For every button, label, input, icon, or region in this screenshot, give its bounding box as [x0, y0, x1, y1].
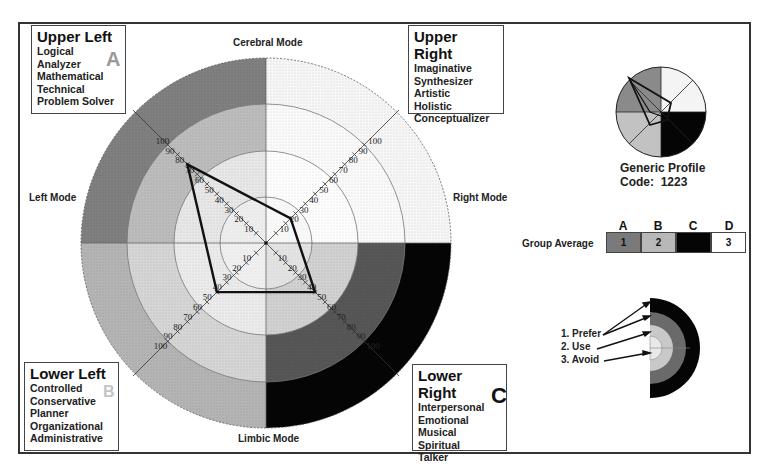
quadrant-box-lower-right: Lower Right Interpersonal Emotional Musi…: [412, 364, 507, 451]
svg-text:50: 50: [203, 292, 213, 302]
quadrant-letter: B: [103, 383, 115, 401]
svg-text:10: 10: [278, 253, 288, 263]
trait: Problem Solver: [37, 95, 120, 108]
svg-text:90: 90: [356, 331, 366, 341]
group-cell-c: [676, 232, 711, 253]
trait: Conservative: [30, 395, 113, 408]
svg-text:60: 60: [195, 175, 205, 185]
trait: Synthesizer: [414, 75, 498, 88]
svg-text:30: 30: [225, 205, 235, 215]
preference-legend-graphic: [597, 298, 700, 398]
svg-text:100: 100: [368, 136, 382, 146]
trait: Musical: [418, 426, 501, 439]
svg-text:100: 100: [154, 341, 168, 351]
trait: Conceptualizer: [414, 112, 498, 125]
group-col-header: C: [675, 219, 711, 233]
quadrant-letter: C: [491, 383, 507, 409]
generic-profile-title: Generic Profile: [620, 161, 705, 175]
svg-text:90: 90: [166, 146, 176, 156]
svg-text:30: 30: [299, 205, 309, 215]
trait: Administrative: [30, 432, 113, 445]
svg-text:60: 60: [327, 302, 337, 312]
svg-text:70: 70: [183, 312, 193, 322]
code-label: Code:: [620, 175, 654, 189]
quadrant-box-upper-left: Upper Left Logical Analyzer Mathematical…: [31, 25, 126, 114]
quadrant-box-upper-right: Upper Right Imaginative Synthesizer Arti…: [408, 25, 504, 114]
code-value: 1223: [661, 175, 688, 189]
svg-text:100: 100: [156, 136, 170, 146]
group-col-header: A: [605, 219, 641, 233]
svg-text:40: 40: [309, 195, 319, 205]
svg-text:90: 90: [164, 331, 174, 341]
svg-text:10: 10: [280, 224, 290, 234]
group-cell-d: 3: [711, 232, 746, 253]
svg-text:60: 60: [193, 302, 203, 312]
mode-label-cerebral: Cerebral Mode: [233, 37, 302, 48]
quadrant-box-lower-left: Lower Left Controlled Conservative Plann…: [24, 362, 119, 451]
trait: Mathematical: [37, 70, 120, 83]
svg-text:20: 20: [288, 263, 298, 273]
generic-profile-code: Code: 1223: [620, 175, 687, 189]
quadrant-title: Upper Right: [414, 28, 498, 62]
legend-use: 2. Use: [561, 341, 590, 353]
mode-label-right: Right Mode: [453, 192, 507, 203]
svg-text:10: 10: [242, 253, 252, 263]
svg-text:30: 30: [223, 272, 233, 282]
quadrant-title: Lower Left: [30, 365, 113, 382]
generic-profile-pie: [616, 67, 706, 157]
group-cell-a: 1: [606, 232, 641, 253]
svg-text:20: 20: [234, 214, 244, 224]
svg-text:40: 40: [215, 195, 225, 205]
svg-text:80: 80: [349, 155, 359, 165]
svg-text:80: 80: [175, 155, 185, 165]
trait: Planner: [30, 407, 113, 420]
trait: Interpersonal: [418, 401, 501, 414]
chart-center: [264, 241, 268, 245]
mode-label-left: Left Mode: [29, 192, 76, 203]
trait: Holistic: [414, 100, 498, 113]
mode-label-limbic: Limbic Mode: [238, 433, 299, 444]
svg-text:70: 70: [339, 165, 349, 175]
trait: Talker: [418, 451, 501, 464]
legend-avoid: 3. Avoid: [561, 354, 599, 366]
svg-text:20: 20: [232, 263, 242, 273]
trait: Artistic: [414, 87, 498, 100]
svg-text:70: 70: [337, 312, 347, 322]
trait: Emotional: [418, 414, 501, 427]
svg-text:80: 80: [173, 322, 183, 332]
svg-text:50: 50: [317, 292, 327, 302]
trait: Organizational: [30, 420, 113, 433]
svg-text:100: 100: [366, 341, 380, 351]
svg-text:50: 50: [319, 185, 329, 195]
trait: Imaginative: [414, 62, 498, 75]
svg-text:60: 60: [329, 175, 339, 185]
group-average-label: Group Average: [522, 238, 594, 249]
quadrant-title: Lower Right: [418, 367, 501, 401]
trait: Technical: [37, 83, 120, 96]
quadrant-title: Upper Left: [37, 28, 120, 45]
group-col-header: B: [640, 219, 676, 233]
trait: Controlled: [30, 382, 113, 395]
svg-text:90: 90: [358, 146, 368, 156]
svg-text:50: 50: [205, 185, 215, 195]
quadrant-letter: A: [106, 48, 120, 71]
legend-prefer: 1. Prefer: [561, 328, 601, 340]
svg-text:30: 30: [297, 272, 307, 282]
trait: Spiritual: [418, 439, 501, 452]
svg-text:10: 10: [244, 224, 254, 234]
group-col-header: D: [711, 219, 747, 233]
svg-text:80: 80: [347, 322, 357, 332]
group-cell-b: 2: [641, 232, 676, 253]
